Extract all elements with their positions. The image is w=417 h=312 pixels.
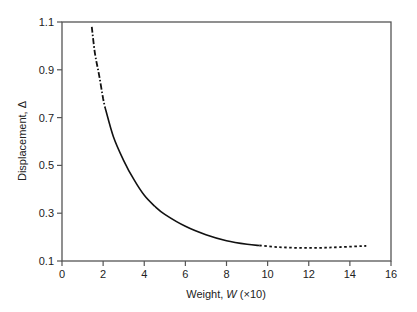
y-tick-label: 0.1 xyxy=(39,255,54,267)
curve-segment-solid xyxy=(105,108,259,246)
x-tick-label: 4 xyxy=(141,268,147,280)
curve-segment-dotted xyxy=(259,246,366,248)
y-tick-label: 1.1 xyxy=(39,16,54,28)
y-tick-label: 0.9 xyxy=(39,64,54,76)
curve-series xyxy=(92,27,367,248)
x-tick-label: 8 xyxy=(223,268,229,280)
displacement-vs-weight-chart: 0246810121416 0.10.30.50.70.91.1 Weight,… xyxy=(0,0,417,312)
x-tick-label: 16 xyxy=(385,268,397,280)
x-axis-ticks: 0246810121416 xyxy=(59,261,397,280)
y-tick-label: 0.7 xyxy=(39,112,54,124)
curve-segment-dashdot xyxy=(92,27,105,108)
x-tick-label: 12 xyxy=(303,268,315,280)
y-tick-label: 0.3 xyxy=(39,207,54,219)
x-axis-label: Weight, W (×10) xyxy=(186,288,266,300)
plot-frame xyxy=(62,22,391,261)
y-axis-label: Displacement, Δ xyxy=(16,100,28,181)
x-tick-label: 2 xyxy=(100,268,106,280)
x-tick-label: 10 xyxy=(262,268,274,280)
x-tick-label: 6 xyxy=(182,268,188,280)
y-tick-label: 0.5 xyxy=(39,159,54,171)
x-tick-label: 0 xyxy=(59,268,65,280)
y-axis-ticks: 0.10.30.50.70.91.1 xyxy=(39,16,62,267)
x-tick-label: 14 xyxy=(344,268,356,280)
